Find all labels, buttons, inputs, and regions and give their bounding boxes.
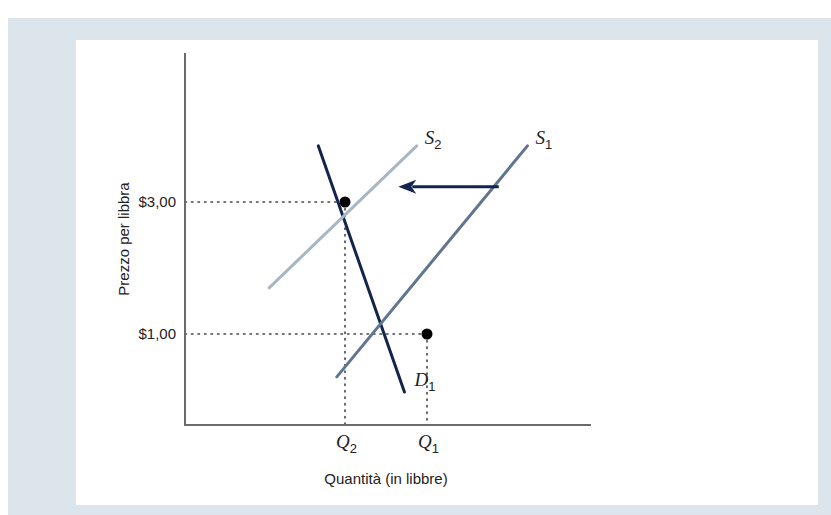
curve-label-s1: S1 [535, 127, 552, 152]
y-axis-title: Prezzo per libbra [115, 182, 132, 296]
x-axis-title: Quantità (in libbre) [324, 470, 447, 487]
curve-s2 [269, 146, 417, 288]
y-tick-label-1: $3,00 [138, 193, 176, 210]
curve-label-d1: D1 [413, 369, 435, 394]
y-tick-label-2: $1,00 [138, 325, 176, 342]
x-tick-label-2: Q1 [418, 431, 439, 456]
curve-label-s2: S2 [425, 127, 442, 152]
equilibrium-point-e2 [340, 197, 351, 208]
x-tick-label-1: Q2 [336, 431, 357, 456]
curve-d1 [318, 146, 404, 392]
supply-demand-chart: D1S2S1$3,00$1,00Q2Q1 Prezzo per libbra Q… [0, 0, 831, 515]
curve-s1 [337, 146, 528, 377]
equilibrium-point-e1 [422, 329, 433, 340]
